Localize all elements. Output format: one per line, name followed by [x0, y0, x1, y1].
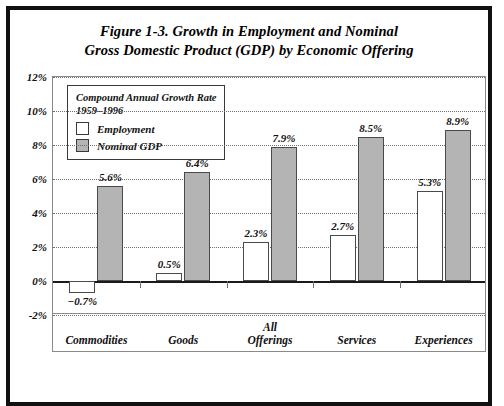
bar-value-label: 2.7%	[331, 220, 354, 232]
x-axis-label-band: CommoditiesGoodsAllOfferingsServicesExpe…	[52, 314, 486, 352]
bar-value-label: 0.5%	[158, 258, 181, 270]
x-axis-tick	[227, 281, 228, 288]
bar-nominal-gdp	[97, 186, 123, 281]
x-axis-category-label: Commodities	[65, 334, 127, 347]
figure-title: Figure 1-3. Growth in Employment and Nom…	[10, 22, 488, 60]
x-axis-category-label: Experiences	[415, 334, 473, 347]
x-axis-category-label-line: Services	[337, 334, 376, 347]
figure-title-line-2: Gross Domestic Product (GDP) by Economic…	[10, 41, 488, 60]
bar-value-label: 5.6%	[99, 171, 122, 183]
bar-value-label: 5.3%	[418, 176, 441, 188]
legend-title: Compound Annual Growth Rate 1959–1996	[76, 92, 216, 117]
bar-nominal-gdp	[358, 137, 384, 282]
y-axis-tick-label: 8%	[32, 139, 47, 151]
legend-label-employment: Employment	[97, 123, 154, 135]
bar-employment	[417, 191, 443, 281]
x-axis-category-label: Services	[337, 334, 376, 347]
x-axis-category-label-line: Commodities	[65, 334, 127, 347]
chart-canvas: Compound Annual Growth Rate 1959–1996 Em…	[52, 76, 486, 356]
x-axis-category-label: AllOfferings	[247, 321, 292, 347]
legend-title-line-1: Compound Annual Growth Rate	[76, 92, 216, 105]
y-axis-tick-label: 4%	[32, 207, 47, 219]
y-axis-tick-label: 6%	[32, 173, 47, 185]
plot-area: Compound Annual Growth Rate 1959–1996 Em…	[52, 76, 486, 314]
bar-employment	[330, 235, 356, 281]
x-axis-tick	[140, 281, 141, 288]
bar-nominal-gdp	[271, 147, 297, 281]
chart-legend: Compound Annual Growth Rate 1959–1996 Em…	[67, 85, 225, 160]
gridline	[53, 111, 485, 112]
bar-nominal-gdp	[445, 130, 471, 281]
gridline	[53, 77, 485, 78]
y-axis-tick-label: 2%	[32, 241, 47, 253]
zero-axis-line	[53, 281, 485, 283]
bar-employment	[156, 273, 182, 282]
bar-employment	[69, 281, 95, 293]
bar-nominal-gdp	[184, 172, 210, 281]
bar-value-label: 6.4%	[186, 157, 209, 169]
x-axis-category-label-line: Goods	[168, 334, 198, 347]
bar-value-label: 2.3%	[245, 227, 268, 239]
legend-item-employment: Employment	[76, 122, 216, 135]
x-axis-category-label-line: All	[247, 321, 292, 334]
x-axis-category-label-line: Offerings	[247, 334, 292, 347]
figure-title-line-1: Figure 1-3. Growth in Employment and Nom…	[10, 22, 488, 41]
y-axis-tick-label: 10%	[27, 105, 47, 117]
x-axis-category-label-line: Experiences	[415, 334, 473, 347]
y-axis-tick-label: -2%	[29, 309, 47, 321]
bar-value-label: −0.7%	[68, 295, 98, 307]
bar-value-label: 7.9%	[273, 132, 296, 144]
legend-swatch-employment-icon	[76, 122, 89, 135]
y-axis-tick-label: 0%	[32, 275, 47, 287]
bar-value-label: 8.5%	[359, 122, 382, 134]
figure-frame: Figure 1-3. Growth in Employment and Nom…	[6, 6, 492, 406]
x-axis-category-label: Goods	[168, 334, 198, 347]
y-axis-tick-label: 12%	[27, 71, 47, 83]
x-axis-tick	[313, 281, 314, 288]
bar-value-label: 8.9%	[446, 115, 469, 127]
x-axis-tick	[400, 281, 401, 288]
bar-employment	[243, 242, 269, 281]
gridline	[53, 145, 485, 146]
